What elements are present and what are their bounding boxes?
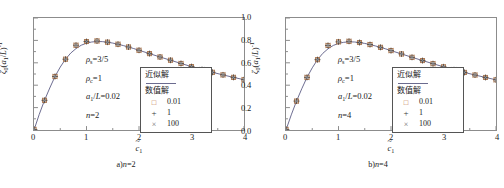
param-a1-over-L: a1/L=0.02: [338, 92, 372, 101]
rho-s-value: =3/5: [93, 54, 109, 64]
a1L-value: =0.02: [100, 91, 120, 101]
legend-b: 近似解 数值解 □ 0.01 + 1 × 100: [392, 67, 464, 133]
a-subscript: 1: [342, 95, 345, 102]
legend-value-2: 100: [415, 120, 431, 128]
legend-value-0: 0.01: [415, 98, 433, 106]
n-value: =2: [90, 110, 99, 120]
a-symbol: a: [250, 60, 260, 64]
plot-svg-b: [286, 18, 496, 130]
y-tick-2: 0.4: [225, 81, 251, 90]
legend-value-1: 1: [163, 109, 171, 117]
y-tick-4: 0.8: [225, 36, 251, 45]
plot-area-b: [285, 17, 497, 131]
legend-value-2: 100: [163, 120, 179, 128]
legend-value-0: 0.01: [163, 98, 181, 106]
y-tick-5: 1.0: [225, 13, 251, 22]
x-tick-3: 3: [182, 133, 202, 142]
rho-c-value: =1: [93, 73, 102, 83]
parameter-annotations-a: ρs=3/5 ρc=1 a1/L=0.02 n=2: [86, 55, 120, 129]
rho-c-subscript: c: [342, 77, 345, 84]
rho-c-value: =1: [345, 73, 354, 83]
x-tick-4: 4: [487, 133, 504, 142]
a-subscript: 1: [2, 57, 9, 60]
legend-entry-plus: + 1: [397, 108, 460, 119]
legend-numeric-label-row: 数值解: [145, 86, 208, 97]
x-tick-1: 1: [76, 133, 96, 142]
square-marker-icon: □: [397, 99, 415, 107]
legend-numeric-label: 数值解: [397, 87, 421, 95]
rho-s-subscript: s: [90, 58, 92, 65]
plus-marker-icon: +: [397, 109, 415, 118]
param-rho-c: ρc=1: [338, 74, 372, 83]
x-tick-1: 1: [328, 133, 348, 142]
caption-prefix-b: b): [368, 160, 375, 169]
legend-entry-cross: × 100: [397, 119, 460, 130]
legend-line-swatch: [398, 83, 428, 84]
param-rho-s: ρs=3/5: [338, 55, 372, 64]
legend-approx-label: 近似解: [145, 71, 169, 79]
rho-s-value: =3/5: [345, 54, 361, 64]
legend-numeric-label: 数值解: [145, 87, 169, 95]
rho-s-subscript: s: [342, 58, 344, 65]
x-tick-0: 0: [275, 133, 295, 142]
zeta-subscript: 0: [2, 67, 9, 70]
legend-value-1: 1: [415, 109, 423, 117]
y-tick-3: 0.6: [225, 58, 251, 67]
y-tick-1: 0.2: [225, 104, 251, 113]
legend-line-swatch: [146, 83, 176, 84]
tilde-accent: ~: [388, 138, 391, 146]
x-axis-title: ~c1: [388, 143, 395, 153]
cross-marker-icon: ×: [145, 121, 163, 129]
param-a1-over-L: a1/L=0.02: [86, 92, 120, 101]
x-tick-3: 3: [434, 133, 454, 142]
square-marker-icon: □: [145, 99, 163, 107]
legend-approx-label-row: 近似解: [145, 70, 208, 81]
next-caption-fragment: [0, 180, 504, 188]
legend-approx-label: 近似解: [397, 71, 421, 79]
cross-marker-icon: ×: [397, 121, 415, 129]
approx-curve-a: [34, 42, 244, 130]
c-subscript: 1: [139, 147, 142, 154]
approx-curve-b: [286, 42, 496, 130]
caption-value-b: =4: [379, 160, 388, 169]
exponent: -1: [0, 42, 3, 47]
paren-close: ): [250, 47, 260, 50]
zeta-symbol: ζ: [250, 71, 260, 74]
x-tick-0: 0: [23, 133, 43, 142]
legend-entry-square: □ 0.01: [145, 97, 208, 108]
L-symbol: L: [0, 50, 8, 55]
legend-approx-label-row: 近似解: [397, 70, 460, 81]
panel-a: ζ0(a1/L)-1 0.0 0.2 0.4 0.6 0.8 1.0: [0, 0, 252, 188]
legend-entry-cross: × 100: [145, 119, 208, 130]
y-axis-title: ζ0(a1/L)-1: [250, 42, 260, 74]
L-symbol: L: [250, 50, 260, 55]
plus-marker-icon: +: [145, 109, 163, 118]
parameter-annotations-b: ρs=3/5 ρc=1 a1/L=0.02 n=4: [338, 55, 372, 129]
a1L-value: =0.02: [352, 91, 372, 101]
plot-area-a: [33, 17, 245, 131]
numeric-markers-b: [286, 38, 496, 130]
legend-entry-plus: + 1: [145, 108, 208, 119]
legend-a: 近似解 数值解 □ 0.01 + 1 × 100: [140, 67, 212, 133]
x-axis-title: ~c1: [136, 143, 143, 153]
n-value: =4: [342, 110, 351, 120]
param-n: n=4: [338, 111, 372, 120]
param-n: n=2: [86, 111, 120, 120]
subplot-caption-b: b)n=4: [368, 160, 388, 169]
panel-b: ζ0(a1/L)-1 0.0 0.2 0.4 0.6 0.8 1.0: [252, 0, 504, 188]
plot-svg-a: [34, 18, 244, 130]
subplot-caption-a: a)n=2: [116, 160, 135, 169]
param-rho-s: ρs=3/5: [86, 55, 120, 64]
y-tick-0: 0.0: [225, 127, 251, 136]
figure-container: ζ0(a1/L)-1 0.0 0.2 0.4 0.6 0.8 1.0: [0, 0, 504, 188]
param-rho-c: ρc=1: [86, 74, 120, 83]
a-subscript: 1: [254, 57, 261, 60]
c-subscript: 1: [391, 147, 394, 154]
paren-close: ): [0, 47, 8, 50]
rho-c-subscript: c: [90, 77, 93, 84]
a-symbol: a: [0, 60, 8, 64]
legend-numeric-label-row: 数值解: [397, 86, 460, 97]
caption-value-a: =2: [127, 160, 136, 169]
legend-entry-square: □ 0.01: [397, 97, 460, 108]
numeric-markers-a: [34, 38, 244, 130]
